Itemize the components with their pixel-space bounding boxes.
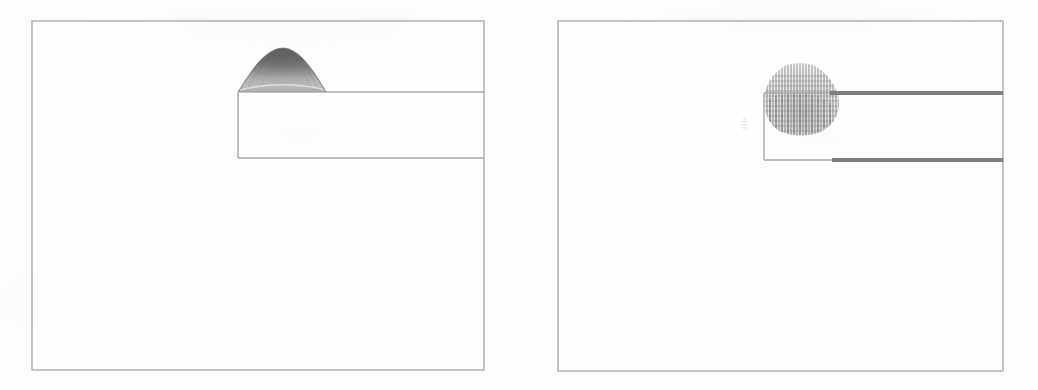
- figure-root: [0, 0, 1038, 390]
- left-panel-plot: [0, 0, 519, 390]
- panel-right-quiver: [519, 0, 1038, 390]
- panel-left-contour: [0, 0, 519, 390]
- right-panel-plot: [519, 0, 1038, 390]
